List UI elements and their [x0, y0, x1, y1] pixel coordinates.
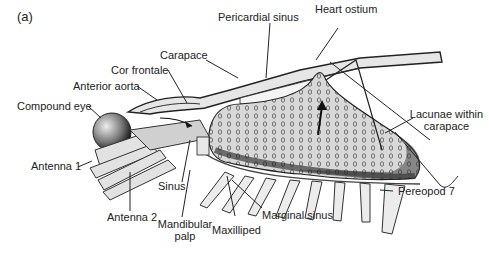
- label-pereopod-7: Pereopod 7: [398, 185, 455, 197]
- label-lacunae-line1: Lacunae within: [404, 108, 489, 120]
- label-heart-ostium: Heart ostium: [315, 3, 377, 15]
- label-sinus: Sinus: [158, 180, 186, 192]
- label-mandibular-palp: Mandibular palp: [153, 218, 217, 242]
- label-maxilliped: Maxilliped: [212, 224, 261, 236]
- label-pericardial-sinus: Pericardial sinus: [218, 11, 299, 23]
- label-antenna-2: Antenna 2: [107, 211, 157, 223]
- label-carapace: Carapace: [160, 49, 208, 61]
- label-antenna-1: Antenna 1: [31, 160, 81, 172]
- panel-label: (a): [17, 9, 33, 24]
- label-lacunae-within-carapace: Lacunae within carapace: [404, 108, 489, 132]
- label-marginal-sinus: Marginal sinus: [262, 209, 333, 221]
- label-mandibular-line1: Mandibular: [153, 218, 217, 230]
- label-anterior-aorta: Anterior aorta: [73, 80, 140, 92]
- label-lacunae-line2: carapace: [404, 120, 489, 132]
- label-mandibular-line2: palp: [153, 230, 217, 242]
- label-cor-frontale: Cor frontale: [111, 64, 168, 76]
- label-compound-eye: Compound eye: [17, 100, 92, 112]
